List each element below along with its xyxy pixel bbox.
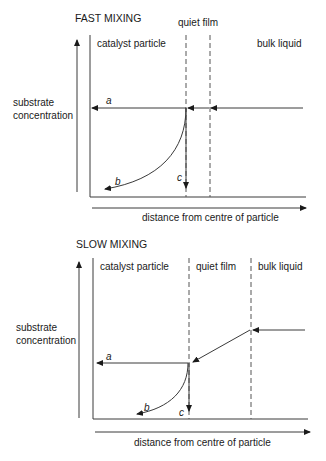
curve-c-label: c [179,407,184,418]
region-label-bulk: bulk liquid [258,261,302,272]
curve-a-label: a [106,351,112,362]
x-axis-label: distance from centre of particle [134,437,271,448]
film-gradient-arrow [193,330,250,362]
fast-mixing-diagram: FAST MIXING catalyst particle quiet film… [13,12,306,223]
y-axis-label: substrate [16,322,58,333]
curve-c-label: c [177,172,182,183]
curve-b-label: b [115,176,121,187]
y-axis-label-line2: concentration [13,110,73,121]
y-axis-label-line2: concentration [16,335,76,346]
curve-b-label: b [144,402,150,413]
y-axis-label: substrate [13,97,55,108]
x-axis-label: distance from centre of particle [142,212,279,223]
region-label-particle: catalyst particle [97,38,166,49]
mixing-diagrams: FAST MIXING catalyst particle quiet film… [0,0,326,461]
region-label-particle: catalyst particle [100,261,169,272]
slow-mixing-diagram: SLOW MIXING catalyst particle quiet film… [16,238,310,448]
region-label-film: quiet film [178,17,218,28]
diagram-title: SLOW MIXING [76,238,147,250]
region-label-bulk: bulk liquid [257,38,301,49]
diagram-title: FAST MIXING [75,12,141,24]
region-label-film: quiet film [196,261,236,272]
curve-a-label: a [106,95,112,106]
